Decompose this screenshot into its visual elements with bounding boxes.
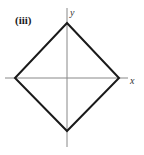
diamond-diagram: (iii) y x (0, 0, 144, 155)
x-axis-label: x (130, 76, 134, 86)
panel-label: (iii) (15, 15, 32, 26)
y-axis-label: y (70, 8, 74, 18)
